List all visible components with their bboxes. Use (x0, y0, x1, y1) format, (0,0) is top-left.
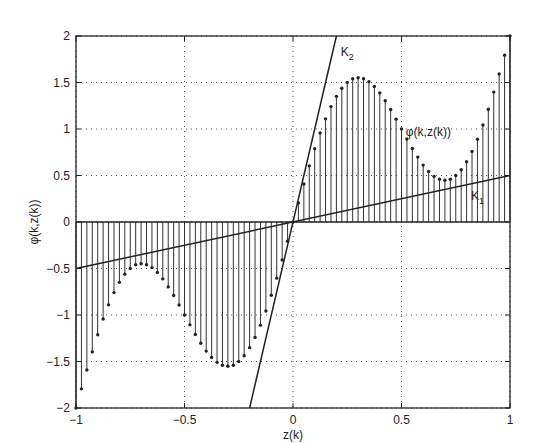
stem-marker (91, 350, 94, 353)
stem-marker (80, 387, 83, 390)
stem-marker (318, 131, 321, 134)
stem-marker (129, 267, 132, 270)
stem-marker (335, 95, 338, 98)
stem-marker (156, 271, 159, 274)
stem-marker (172, 294, 175, 297)
axis-ticks: −1−0.500.51−2−1.5−1−0.500.511.52 (46, 29, 513, 427)
stem-marker (123, 273, 126, 276)
stem-marker (232, 364, 235, 367)
stem-marker (356, 76, 359, 79)
stem-marker (394, 117, 397, 120)
stem-marker (443, 179, 446, 182)
stem-marker (242, 354, 245, 357)
stem-marker (253, 336, 256, 339)
stem-marker (248, 346, 251, 349)
stem-marker (422, 163, 425, 166)
annotation-subscript: 1 (479, 196, 484, 206)
y-tick-label: 1.5 (53, 76, 70, 90)
stem-marker (378, 91, 381, 94)
stem-marker (107, 303, 110, 306)
stem-marker (465, 160, 468, 163)
stem-marker (237, 360, 240, 363)
stem-marker (400, 127, 403, 130)
y-tick-label: 0.5 (53, 169, 70, 183)
stem-marker (492, 90, 495, 93)
stem-marker (470, 150, 473, 153)
x-axis-label: z(k) (283, 428, 303, 442)
x-tick-label: 1 (507, 413, 514, 427)
stem-marker (150, 266, 153, 269)
stem-marker (438, 178, 441, 181)
stem-marker (432, 175, 435, 178)
stem-marker (449, 178, 452, 181)
x-tick-label: −0.5 (173, 413, 197, 427)
y-tick-label: −2 (56, 401, 70, 415)
stem-marker (226, 365, 229, 368)
stem-marker (313, 147, 316, 150)
annotation-subscript: 2 (349, 52, 354, 62)
stem-marker (205, 349, 208, 352)
stem-marker (340, 87, 343, 90)
y-tick-label: 2 (63, 29, 70, 43)
stem-marker (367, 80, 370, 83)
y-axis-label: φ(k,z(k)) (27, 199, 41, 244)
stem-marker (139, 262, 142, 265)
y-tick-label: −1.5 (46, 355, 70, 369)
x-tick-label: −1 (69, 413, 83, 427)
stem-marker (308, 164, 311, 167)
stem-marker (259, 323, 262, 326)
stem-marker (161, 277, 164, 280)
annotation-label: φ(k,z(k)) (406, 125, 451, 139)
stem-marker (134, 263, 137, 266)
stem-marker (199, 341, 202, 344)
stem-marker (454, 174, 457, 177)
stem-marker (194, 333, 197, 336)
stem-marker (389, 108, 392, 111)
stem-marker (329, 105, 332, 108)
stem-marker (384, 99, 387, 102)
stem-marker (497, 72, 500, 75)
stem-marker (145, 263, 148, 266)
stem-marker (476, 137, 479, 140)
stem-marker (101, 317, 104, 320)
stem-marker (118, 281, 121, 284)
stem-marker (459, 168, 462, 171)
stem-marker (85, 368, 88, 371)
stem-marker (346, 81, 349, 84)
stem-marker (270, 294, 273, 297)
stem-marker (221, 364, 224, 367)
stem-marker (188, 323, 191, 326)
stem-marker (112, 291, 115, 294)
stem-chart: −1−0.500.51−2−1.5−1−0.500.511.52 φ(k,z(k… (0, 0, 534, 443)
stem-marker (275, 276, 278, 279)
y-tick-label: −0.5 (46, 262, 70, 276)
stem-marker (487, 108, 490, 111)
stem-marker (215, 361, 218, 364)
stem-marker (167, 285, 170, 288)
annotation-label: K2 (341, 45, 354, 62)
stem-marker (210, 356, 213, 359)
stem-marker (183, 313, 186, 316)
stem-marker (481, 123, 484, 126)
stem-marker (362, 77, 365, 80)
stem-marker (503, 53, 506, 56)
x-tick-label: 0.5 (393, 413, 410, 427)
y-tick-label: 1 (63, 122, 70, 136)
stem-marker (264, 309, 267, 312)
stem-marker (351, 77, 354, 80)
y-tick-label: 0 (63, 215, 70, 229)
stem-marker (427, 170, 430, 173)
stem-marker (373, 85, 376, 88)
y-tick-label: −1 (56, 308, 70, 322)
stem-marker (96, 333, 99, 336)
stem-marker (177, 303, 180, 306)
stem-marker (416, 155, 419, 158)
x-tick-label: 0 (290, 413, 297, 427)
stem-marker (411, 147, 414, 150)
stem-marker (324, 117, 327, 120)
